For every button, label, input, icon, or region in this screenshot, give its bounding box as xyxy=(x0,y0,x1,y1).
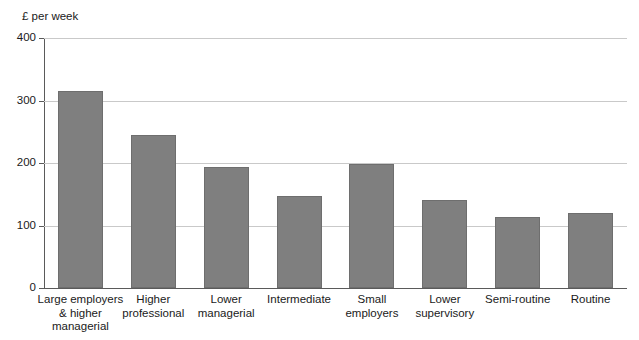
bar[interactable] xyxy=(349,164,394,288)
bar[interactable] xyxy=(495,217,540,288)
y-tick-label-200: 200 xyxy=(2,157,36,169)
y-tick-label-0: 0 xyxy=(2,282,36,294)
bar[interactable] xyxy=(58,91,103,288)
chart-figure: £ per week 0100200300400 Large employers… xyxy=(0,0,639,340)
y-tick-label-300: 300 xyxy=(2,95,36,107)
gridline-300 xyxy=(44,101,627,102)
bar[interactable] xyxy=(422,200,467,288)
bar[interactable] xyxy=(568,213,613,288)
x-axis-label: Routine xyxy=(546,293,635,307)
bar[interactable] xyxy=(277,196,322,288)
plot-area xyxy=(44,38,627,288)
gridline-0 xyxy=(44,288,627,289)
gridline-400 xyxy=(44,38,627,39)
y-axis-title: £ per week xyxy=(22,10,78,23)
y-tick-label-400: 400 xyxy=(2,32,36,44)
y-tick-label-100: 100 xyxy=(2,220,36,232)
bar[interactable] xyxy=(204,167,249,288)
bar[interactable] xyxy=(131,135,176,288)
